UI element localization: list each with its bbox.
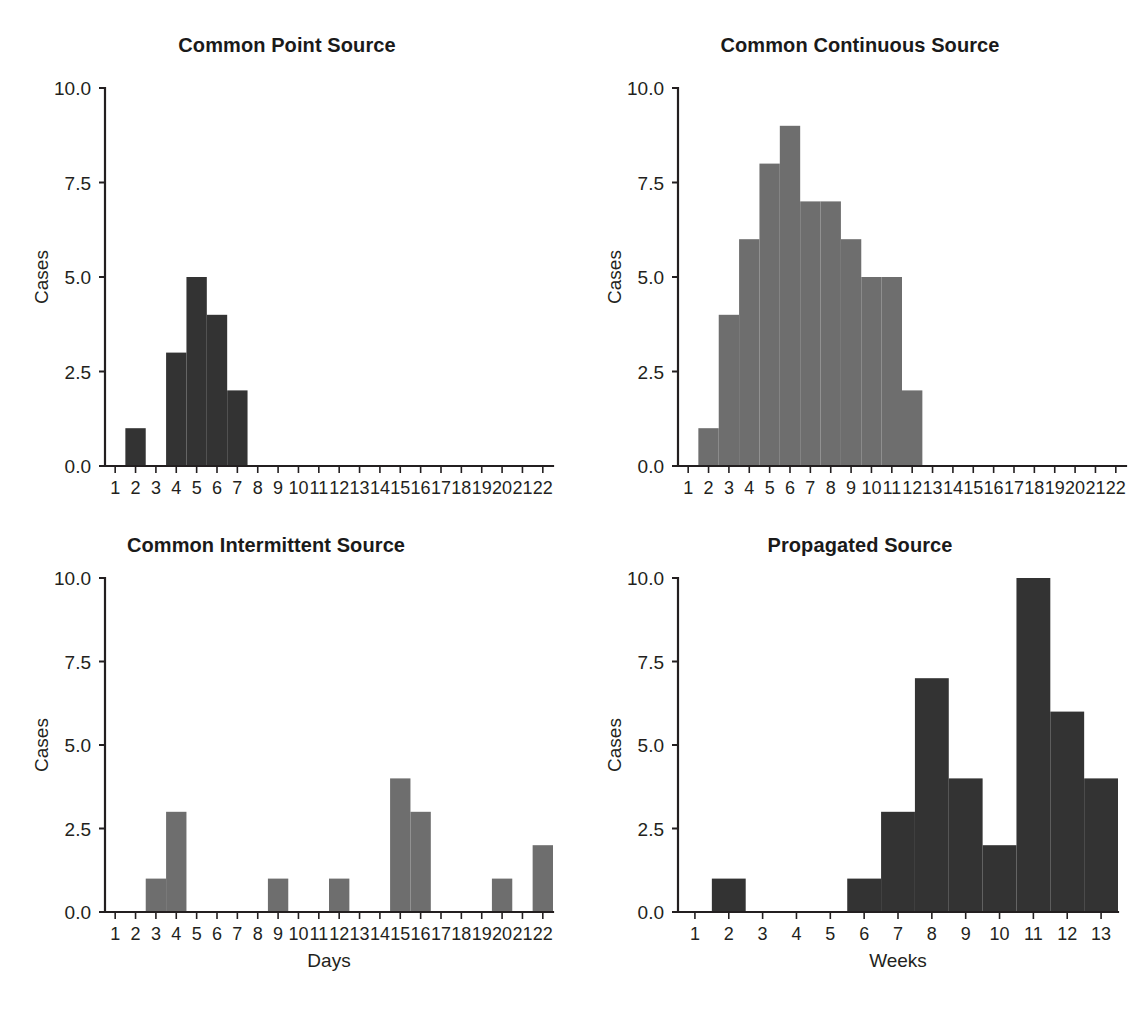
chart-common-continuous-source: 0.02.55.07.510.0123456789101112131415161… [573, 8, 1147, 508]
chart-common-point-source: 0.02.55.07.510.0123456789101112131415161… [0, 8, 574, 508]
bar [186, 277, 206, 466]
bar [146, 879, 166, 912]
x-tick-label: 11 [309, 924, 328, 944]
bar [841, 239, 861, 466]
x-tick-label: 16 [984, 478, 1004, 498]
x-tick-label: 5 [192, 478, 202, 498]
x-tick-label: 11 [309, 478, 328, 498]
plot-area-common-point-source: 0.02.55.07.510.0123456789101112131415161… [0, 8, 574, 508]
bar [1084, 778, 1118, 912]
x-tick-label: 11 [1024, 924, 1043, 944]
bar [492, 879, 512, 912]
x-tick-label: 19 [472, 478, 492, 498]
x-tick-label: 20 [492, 924, 512, 944]
x-tick-label: 15 [390, 924, 410, 944]
x-tick-label: 15 [390, 478, 410, 498]
y-axis-title: Cases [604, 718, 625, 772]
bar [329, 879, 349, 912]
y-axis-title: Cases [604, 250, 625, 304]
chart-common-intermittent-source: 0.02.55.07.510.0123456789101112131415161… [0, 508, 574, 998]
x-tick-label: 21 [1085, 478, 1105, 498]
y-tick-label: 10.0 [627, 568, 664, 589]
x-tick-label: 22 [1106, 478, 1126, 498]
x-tick-label: 22 [533, 478, 553, 498]
x-tick-label: 2 [724, 924, 734, 944]
y-tick-label: 0.0 [638, 456, 664, 477]
bar [533, 845, 553, 912]
x-tick-label: 2 [704, 478, 714, 498]
x-tick-label: 21 [512, 478, 532, 498]
plot-area-propagated-source: 0.02.55.07.510.012345678910111213WeeksCa… [573, 508, 1147, 998]
x-tick-label: 14 [943, 478, 963, 498]
bar [902, 390, 922, 466]
figure-caption-strip [0, 998, 1147, 1013]
x-tick-label: 3 [151, 924, 161, 944]
x-tick-label: 9 [846, 478, 856, 498]
x-tick-label: 13 [350, 478, 370, 498]
x-tick-label: 7 [805, 478, 815, 498]
x-tick-label: 5 [825, 924, 835, 944]
x-tick-label: 12 [902, 478, 922, 498]
x-tick-label: 16 [411, 924, 431, 944]
x-tick-label: 8 [253, 924, 263, 944]
x-tick-label: 17 [1004, 478, 1024, 498]
x-tick-label: 13 [350, 924, 370, 944]
x-tick-label: 10 [861, 478, 881, 498]
y-tick-label: 5.0 [65, 267, 91, 288]
bar [207, 315, 227, 466]
y-tick-label: 10.0 [54, 78, 91, 99]
x-tick-label: 3 [758, 924, 768, 944]
x-tick-label: 8 [927, 924, 937, 944]
y-axis-title: Cases [31, 250, 52, 304]
bar [698, 428, 718, 466]
x-tick-label: 12 [1057, 924, 1077, 944]
x-tick-label: 6 [785, 478, 795, 498]
bar [390, 778, 410, 912]
x-tick-label: 9 [273, 478, 283, 498]
plot-area-common-intermittent-source: 0.02.55.07.510.0123456789101112131415161… [0, 508, 574, 998]
x-tick-label: 1 [683, 478, 693, 498]
x-tick-label: 1 [110, 478, 120, 498]
x-tick-label: 12 [329, 924, 349, 944]
x-tick-label: 12 [329, 478, 349, 498]
x-tick-label: 5 [192, 924, 202, 944]
x-tick-label: 6 [859, 924, 869, 944]
x-tick-label: 11 [882, 478, 901, 498]
plot-area-common-continuous-source: 0.02.55.07.510.0123456789101112131415161… [573, 8, 1147, 508]
x-axis-title: Weeks [869, 950, 927, 971]
bar [166, 353, 186, 466]
x-tick-label: 14 [370, 478, 390, 498]
x-tick-label: 5 [765, 478, 775, 498]
bar [268, 879, 288, 912]
y-tick-label: 5.0 [65, 735, 91, 756]
bar [759, 164, 779, 466]
x-tick-label: 6 [212, 478, 222, 498]
y-axis-title: Cases [31, 718, 52, 772]
y-tick-label: 0.0 [65, 456, 91, 477]
x-tick-label: 8 [253, 478, 263, 498]
y-tick-label: 0.0 [638, 902, 664, 923]
panel-common-point-source: Common Point Source 0.02.55.07.510.01234… [0, 8, 574, 508]
bar [410, 812, 430, 912]
x-tick-label: 22 [533, 924, 553, 944]
x-tick-label: 13 [1091, 924, 1111, 944]
bar [780, 126, 800, 466]
y-tick-label: 7.5 [65, 173, 91, 194]
epidemic-curve-figure: Common Point Source 0.02.55.07.510.01234… [0, 0, 1147, 1013]
y-tick-label: 2.5 [65, 819, 91, 840]
x-tick-label: 13 [923, 478, 943, 498]
bar [719, 315, 739, 466]
x-tick-label: 9 [961, 924, 971, 944]
x-tick-label: 10 [288, 478, 308, 498]
bar [1050, 712, 1084, 912]
bar [915, 678, 949, 912]
x-tick-label: 14 [370, 924, 390, 944]
x-tick-label: 7 [232, 478, 242, 498]
bar [166, 812, 186, 912]
x-tick-label: 4 [744, 478, 754, 498]
x-tick-label: 4 [171, 478, 181, 498]
bar [800, 201, 820, 466]
x-tick-label: 10 [990, 924, 1010, 944]
y-tick-label: 7.5 [638, 652, 664, 673]
y-tick-label: 5.0 [638, 735, 664, 756]
